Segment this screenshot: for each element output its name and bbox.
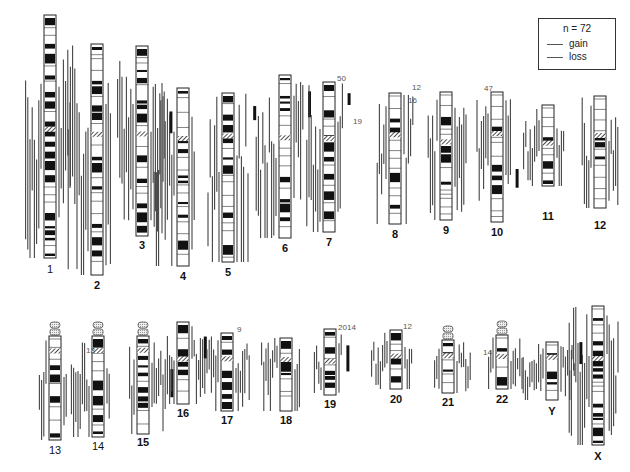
- loss-line-icon: [547, 57, 563, 58]
- count-annotation: 12: [412, 83, 421, 92]
- chromosome-label-3: 3: [139, 239, 145, 251]
- count-annotation: 19: [353, 117, 362, 126]
- chromosome-label-11: 11: [542, 210, 554, 222]
- chromosome-label-12: 12: [594, 219, 606, 231]
- chromosome-label-10: 10: [491, 226, 503, 238]
- chromosome-label-15: 15: [137, 436, 149, 448]
- chromosome-label-19: 19: [324, 398, 336, 410]
- chromosome-label-21: 21: [442, 396, 454, 408]
- count-annotation: 12: [403, 322, 412, 331]
- legend-box: n = 72 gain loss: [538, 18, 616, 70]
- count-annotation: 14: [347, 323, 356, 332]
- chromosome-label-1: 1: [47, 263, 53, 275]
- chromosome-label-16: 16: [177, 407, 189, 419]
- legend-gain: gain: [547, 38, 588, 49]
- chromosome-label-2: 2: [94, 279, 100, 291]
- karyogram-figure: n = 72 gain loss 12345678910111213141516…: [0, 0, 630, 472]
- chromosome-label-x: X: [594, 450, 601, 462]
- count-annotation: 14: [483, 348, 492, 357]
- count-annotation: 16: [408, 96, 417, 105]
- karyogram-svg: [0, 0, 630, 472]
- chromosome-label-9: 9: [443, 224, 449, 236]
- chromosome-label-5: 5: [225, 266, 231, 278]
- chromosome-label-14: 14: [92, 440, 104, 452]
- count-annotation: 20: [338, 323, 347, 332]
- chromosome-label-13: 13: [49, 444, 61, 456]
- chromosome-label-18: 18: [280, 414, 292, 426]
- chromosome-label-17: 17: [221, 414, 233, 426]
- chromosome-label-20: 20: [390, 393, 402, 405]
- legend-n: n = 72: [539, 23, 615, 34]
- count-annotation: 9: [237, 325, 241, 334]
- count-annotation: 47: [484, 84, 493, 93]
- count-annotation: 50: [337, 74, 346, 83]
- chromosome-label-y: Y: [548, 405, 555, 417]
- chromosome-label-4: 4: [180, 270, 186, 282]
- gain-line-icon: [547, 44, 563, 45]
- chromosome-label-22: 22: [496, 393, 508, 405]
- chromosome-label-8: 8: [392, 228, 398, 240]
- legend-loss: loss: [547, 51, 587, 62]
- chromosome-label-7: 7: [326, 236, 332, 248]
- chromosome-label-6: 6: [282, 242, 288, 254]
- count-annotation: 13: [86, 346, 95, 355]
